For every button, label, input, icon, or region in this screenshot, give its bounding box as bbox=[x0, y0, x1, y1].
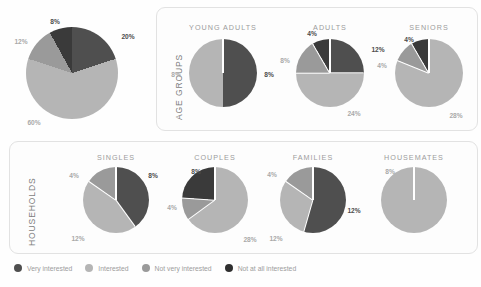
pie-chart-housemates bbox=[381, 167, 447, 233]
pie-couples-value-8: 8% bbox=[191, 168, 201, 175]
pie-divider bbox=[312, 167, 313, 200]
pie-title-families: FAMILIES bbox=[293, 153, 333, 162]
legend-item-not-very-interested[interactable]: Not very interested bbox=[142, 264, 212, 272]
pie-couples-value-4: 4% bbox=[167, 204, 177, 211]
pie-divider bbox=[214, 167, 215, 200]
pie-adults-value-8: 8% bbox=[280, 57, 290, 64]
pie-chart-families bbox=[280, 167, 346, 233]
pie-couples-value-28: 28% bbox=[243, 236, 256, 243]
pie-adults-value-12: 12% bbox=[371, 46, 384, 53]
legend-swatch-icon bbox=[85, 264, 93, 272]
pie-divider bbox=[330, 72, 364, 73]
pie-overview-value-60: 60% bbox=[27, 119, 40, 126]
pie-divider bbox=[428, 39, 429, 73]
pie-families-value-12b: 12% bbox=[269, 235, 282, 242]
pie-overview-graphic bbox=[26, 27, 118, 119]
legend-item-not-at-all-interested[interactable]: Not at all interested bbox=[225, 264, 297, 272]
pie-adults-value-24: 24% bbox=[347, 110, 360, 117]
pie-chart-adults bbox=[296, 39, 364, 107]
pie-divider bbox=[115, 167, 116, 200]
pie-divider bbox=[413, 167, 414, 200]
panel-households: HOUSEHOLDS SINGLES 8% 12% 4% COUPLES 28%… bbox=[9, 141, 478, 254]
section-label-households: HOUSEHOLDS bbox=[27, 177, 37, 246]
section-label-age-groups: AGE GROUPS bbox=[174, 54, 184, 120]
legend-item-very-interested[interactable]: Very interested bbox=[14, 264, 72, 272]
pie-young-adults-value-right: 8% bbox=[264, 71, 274, 78]
pie-singles-value-8: 8% bbox=[148, 172, 158, 179]
pie-title-couples: COUPLES bbox=[194, 153, 235, 162]
pie-overview-value-20: 20% bbox=[121, 33, 134, 40]
infographic-root: 20% 60% 12% 8% AGE GROUPS YOUNG ADULTS 8… bbox=[0, 0, 481, 287]
pie-young-adults-value-left: 8% bbox=[171, 71, 181, 78]
pie-overview-value-8: 8% bbox=[50, 18, 60, 25]
pie-divider bbox=[222, 39, 223, 73]
legend-label: Very interested bbox=[27, 265, 72, 272]
pie-seniors-value-28: 28% bbox=[449, 112, 462, 119]
pie-title-young-adults: YOUNG ADULTS bbox=[189, 23, 257, 32]
pie-housemates-value-8: 8% bbox=[385, 168, 395, 175]
legend-label: Not at all interested bbox=[238, 265, 297, 272]
pie-divider bbox=[329, 39, 330, 73]
pie-chart-overview bbox=[26, 27, 118, 119]
legend-label: Not very interested bbox=[155, 265, 212, 272]
pie-divider bbox=[296, 72, 330, 73]
pie-title-housemates: HOUSEMATES bbox=[384, 153, 444, 162]
pie-seniors-value-4b: 4% bbox=[377, 62, 387, 69]
pie-adults-value-4: 4% bbox=[307, 30, 317, 37]
legend-swatch-icon bbox=[225, 264, 233, 272]
legend-swatch-icon bbox=[14, 264, 22, 272]
pie-overview-value-12: 12% bbox=[14, 38, 27, 45]
legend-swatch-icon bbox=[142, 264, 150, 272]
pie-title-seniors: SENIORS bbox=[409, 23, 448, 32]
pie-chart-young-adults bbox=[189, 39, 257, 107]
pie-seniors-value-4a: 4% bbox=[404, 36, 414, 43]
legend-label: Interested bbox=[98, 265, 128, 272]
pie-chart-couples bbox=[182, 167, 248, 233]
pie-title-singles: SINGLES bbox=[97, 153, 135, 162]
pie-families-value-12a: 12% bbox=[347, 207, 360, 214]
panel-age-groups: AGE GROUPS YOUNG ADULTS 8% 8% ADULTS 12%… bbox=[156, 7, 478, 131]
legend: Very interested Interested Not very inte… bbox=[14, 264, 296, 272]
pie-chart-singles bbox=[83, 167, 149, 233]
pie-chart-seniors bbox=[395, 39, 463, 107]
pie-families-value-4: 4% bbox=[267, 171, 277, 178]
pie-title-adults: ADULTS bbox=[313, 23, 347, 32]
pie-singles-value-4: 4% bbox=[69, 172, 79, 179]
legend-item-interested[interactable]: Interested bbox=[85, 264, 128, 272]
pie-singles-value-12: 12% bbox=[71, 235, 84, 242]
